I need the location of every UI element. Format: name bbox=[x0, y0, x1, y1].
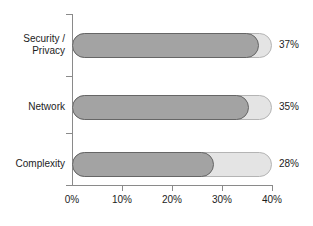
x-axis-tick-label: 20% bbox=[152, 194, 192, 206]
bar-fill-security-privacy bbox=[72, 33, 259, 58]
x-axis-tick-10 bbox=[122, 185, 123, 191]
x-axis-tick-30 bbox=[222, 185, 223, 191]
bar-value-label: 35% bbox=[279, 101, 299, 113]
bar-value-label: 37% bbox=[279, 39, 299, 51]
x-axis-tick-label: 40% bbox=[252, 194, 292, 206]
y-axis-tick bbox=[66, 14, 73, 15]
x-axis-tick-label: 30% bbox=[202, 194, 242, 206]
x-axis-tick-0 bbox=[72, 179, 73, 186]
y-axis-tick bbox=[66, 76, 73, 77]
bar-chart: Security / Privacy Network Complexity 37… bbox=[0, 0, 313, 226]
bar-track bbox=[72, 95, 272, 120]
y-axis-tick bbox=[66, 133, 73, 134]
bar-fill-complexity bbox=[72, 152, 214, 177]
bar-fill-network bbox=[72, 95, 249, 120]
x-axis-tick-40 bbox=[272, 185, 273, 191]
bar-track bbox=[72, 33, 272, 58]
x-axis-tick-20 bbox=[172, 185, 173, 191]
x-axis-tick-label: 10% bbox=[102, 194, 142, 206]
category-label-security-privacy: Security / Privacy bbox=[23, 33, 65, 57]
category-label-line: Security / bbox=[23, 33, 65, 45]
category-label-line: Network bbox=[28, 101, 65, 113]
category-label-line: Privacy bbox=[23, 45, 65, 57]
bar-value-label: 28% bbox=[279, 158, 299, 170]
category-label-complexity: Complexity bbox=[16, 158, 65, 170]
category-label-line: Complexity bbox=[16, 158, 65, 170]
category-label-network: Network bbox=[28, 101, 65, 113]
x-axis-tick-label: 0% bbox=[52, 194, 92, 206]
bar-track bbox=[72, 152, 272, 177]
